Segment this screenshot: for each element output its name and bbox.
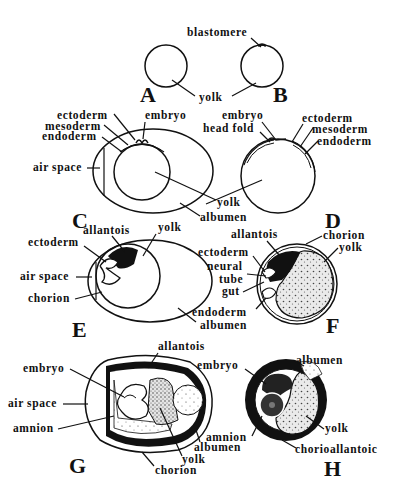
panel-letter-f: F	[326, 313, 339, 338]
label-neural-f: neural	[207, 260, 243, 272]
label-air-space-g: air space	[8, 397, 57, 410]
label-head-fold-d: head fold	[203, 122, 254, 134]
label-yolk-e: yolk	[158, 221, 182, 234]
label-embryo-c: embryo	[145, 109, 186, 122]
panel-letter-g: G	[69, 453, 86, 478]
panel-letter-e: E	[72, 317, 87, 342]
label-allantois-f: allantois	[231, 228, 278, 240]
label-embryo-h: embryo	[197, 359, 238, 372]
panel-letter-b: B	[273, 82, 288, 107]
yolk-c	[114, 144, 170, 200]
label-yolk-f: yolk	[339, 241, 363, 254]
embryo-diagram: A blastomere yolk B ectoderm mesoderm en…	[0, 0, 402, 492]
label-gut-f: gut	[222, 285, 240, 298]
label-albumen-g: albumen	[194, 441, 241, 453]
panel-letter-a: A	[140, 82, 156, 107]
panel-e: allantois yolk ectoderm air space chorio…	[20, 221, 247, 342]
panel-a: A	[140, 45, 195, 107]
yolk-d	[241, 139, 315, 213]
label-endoderm-e: endoderm	[192, 306, 247, 318]
embryo-e	[100, 259, 120, 284]
label-blastomere: blastomere	[187, 26, 247, 38]
label-chorion-f: chorion	[323, 229, 365, 241]
label-endoderm-d: endoderm	[317, 135, 372, 147]
label-allantois-e: allantois	[83, 224, 130, 236]
label-air-space-c: air space	[33, 161, 82, 174]
label-embryo-g: embryo	[23, 362, 64, 375]
label-endoderm-c: endoderm	[42, 130, 97, 142]
label-embryo-d: embryo	[222, 109, 263, 122]
label-albumen-c: albumen	[200, 211, 247, 223]
egg-shell-c	[93, 129, 213, 213]
label-air-space-e: air space	[20, 270, 69, 283]
label-ectoderm-e: ectoderm	[28, 236, 79, 248]
label-albumen-e: albumen	[200, 319, 247, 331]
panel-letter-h: H	[324, 456, 341, 481]
label-albumen-h: albumen	[296, 354, 343, 366]
panel-b: blastomere yolk B	[187, 26, 288, 107]
label-ectoderm-f: ectoderm	[198, 246, 249, 258]
label-chorioallantoic-h: chorioallantoic	[295, 443, 377, 455]
label-allantois-g: allantois	[158, 340, 205, 352]
panel-h: albumen embryo amnion albumen yolk chori…	[194, 354, 377, 481]
label-chorion-e: chorion	[28, 292, 70, 304]
yolk-sphere-a	[145, 45, 187, 87]
yolk-sphere-b	[241, 45, 283, 87]
label-yolk-h: yolk	[325, 422, 349, 435]
label-amnion-g: amnion	[13, 422, 54, 434]
label-mesoderm-d: mesoderm	[312, 123, 368, 135]
label-tube-f: tube	[219, 273, 243, 285]
label-chorion-g: chorion	[155, 464, 197, 476]
label-yolk-ab: yolk	[199, 91, 223, 104]
panel-g: allantois embryo air space amnion yolk c…	[8, 340, 212, 478]
